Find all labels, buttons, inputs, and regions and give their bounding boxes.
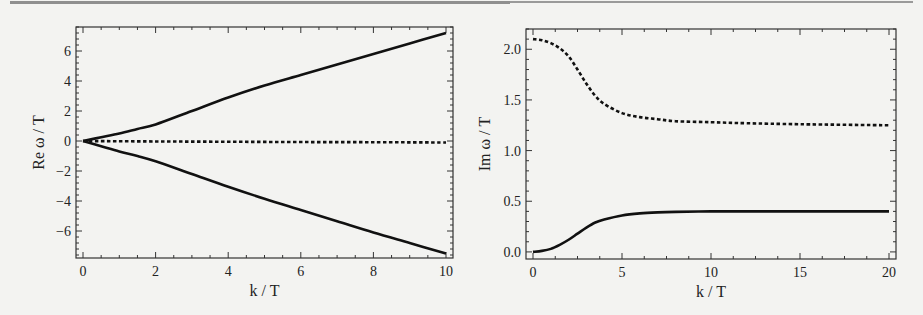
- chart2-x-tick-label: 15: [793, 265, 807, 280]
- chart2-x-tick-label: 20: [882, 265, 896, 280]
- chart2-x-tick-label: 0: [530, 265, 537, 280]
- chart2-y-tick-label: 2.0: [504, 42, 522, 57]
- chart1-y-tick-label: −6: [56, 224, 71, 239]
- chart2-frame: [526, 29, 896, 259]
- chart1-y-tick-label: 6: [64, 44, 71, 59]
- chart1-x-tick-label: 8: [370, 264, 377, 279]
- chart1-x-tick-label: 2: [152, 264, 159, 279]
- chart2-series-lower-line: [533, 211, 889, 252]
- chart1-y-axis-label: Re ω / T: [30, 115, 47, 170]
- chart1-series-lower-line: [83, 141, 446, 254]
- chart1-series-middle-line: [83, 141, 446, 143]
- chart2-x-axis-label: k / T: [696, 283, 726, 300]
- chart1-x-axis-label: k / T: [250, 282, 280, 299]
- chart1-x-tick-label: 4: [225, 264, 232, 279]
- chart2-x-tick-label: 5: [619, 265, 626, 280]
- chart1-y-tick-label: 0: [64, 134, 71, 149]
- chart1-y-tick-label: −2: [56, 164, 71, 179]
- chart1-x-tick-label: 0: [80, 264, 87, 279]
- chart1-y-tick-label: 2: [64, 104, 71, 119]
- chart1-series-upper-line: [83, 33, 446, 141]
- chart2-y-tick-label: 0.0: [504, 245, 522, 260]
- chart1-y-tick-label: −4: [56, 194, 71, 209]
- chart2-x-tick-label: 10: [704, 265, 718, 280]
- chart2-y-tick-label: 0.5: [504, 194, 522, 209]
- chart2-series-upper-line: [533, 39, 889, 125]
- chart1-x-tick-label: 10: [439, 264, 453, 279]
- chart1-x-tick-label: 6: [297, 264, 304, 279]
- chart2-y-tick-label: 1.0: [504, 144, 522, 159]
- chart2-y-axis-label: Im ω / T: [476, 117, 493, 172]
- figure: 0246810−6−4−20246k / TRe ω / T051015200.…: [0, 0, 923, 315]
- chart2-y-tick-label: 1.5: [504, 93, 522, 108]
- chart1-y-tick-label: 4: [64, 74, 71, 89]
